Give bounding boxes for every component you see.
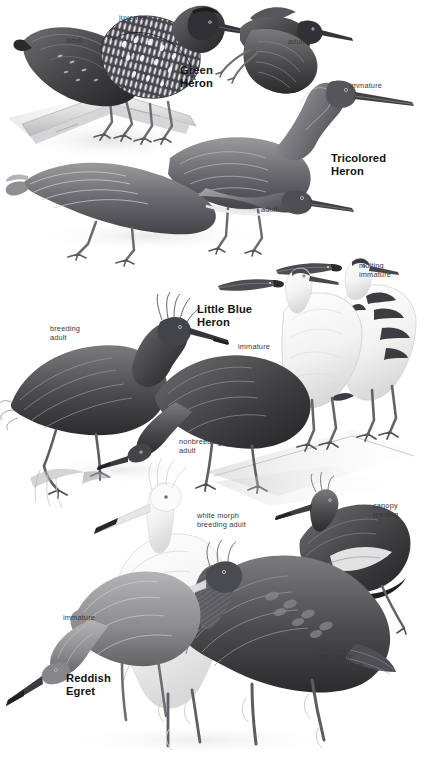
label-little-blue-heron-molting: molting immature: [359, 261, 391, 279]
label-reddish-egret-canopy-feeding: canopy feeding: [373, 501, 398, 519]
label-little-blue-heron-immature: immature: [238, 342, 270, 351]
label-tricolored-heron-adult: adult: [261, 205, 278, 214]
label-reddish-egret-white-morph: white morph breeding adult: [197, 511, 246, 529]
green-heron-flight-figure: [216, 7, 353, 93]
label-reddish-egret-dark-morph: dark morph breeding adult: [314, 652, 363, 670]
species-name-tricolored-heron: TricoloredHeron: [331, 152, 386, 177]
label-green-heron-juvenile: juvenile: [119, 13, 145, 22]
species-name-line2: Egret: [66, 685, 95, 697]
field-guide-plate: GreenHeron TricoloredHeron Little BlueHe…: [0, 0, 433, 761]
species-name-line2: Heron: [197, 316, 230, 328]
species-name-line2: Heron: [331, 165, 364, 177]
label-green-heron-flight-adult: adult: [288, 37, 305, 46]
label-green-heron-adult: adult: [66, 36, 83, 45]
label-little-blue-heron-breeding: breeding adult: [50, 324, 80, 342]
species-name-line1: Green: [180, 64, 213, 76]
label-little-blue-heron-nonbreeding: nonbreeding adult: [179, 437, 222, 455]
species-name-line1: Reddish: [66, 672, 111, 684]
species-name-line1: Little Blue: [197, 303, 252, 315]
label-tricolored-heron-immature: immature: [350, 81, 382, 90]
species-name-little-blue-heron: Little BlueHeron: [197, 303, 252, 328]
species-name-green-heron: GreenHeron: [180, 64, 213, 89]
little-blue-heron-bill-detail-lower: [218, 279, 284, 291]
species-name-line2: Heron: [180, 77, 213, 89]
species-name-reddish-egret: ReddishEgret: [66, 672, 111, 697]
species-name-line1: Tricolored: [331, 152, 386, 164]
label-reddish-egret-immature: immature: [63, 613, 95, 622]
bird-illustration-plate: [0, 0, 433, 761]
reddish-egret-group: [6, 458, 410, 756]
